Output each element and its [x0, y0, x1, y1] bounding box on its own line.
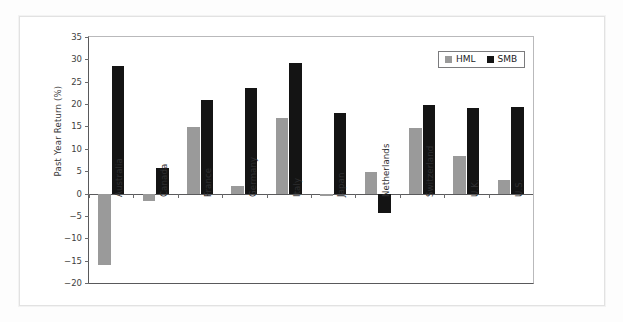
x-tick-mark [178, 194, 179, 198]
y-tick-label: 25 [71, 77, 82, 87]
x-category-label: Canada [159, 163, 169, 196]
x-tick-mark [400, 194, 401, 198]
y-tick-label: 10 [71, 144, 82, 154]
y-tick-mark [85, 37, 89, 38]
bar-hml-uk [453, 156, 466, 194]
x-category-label: U.S. [514, 179, 524, 197]
bar-hml-france [187, 127, 200, 194]
y-tick-mark [85, 238, 89, 239]
x-category-label: Australia [114, 158, 124, 197]
legend-label-hml: HML [456, 55, 476, 64]
legend-item-hml: HML [445, 55, 476, 64]
legend-item-smb: SMB [487, 55, 518, 64]
bar-hml-canada [143, 194, 156, 201]
y-tick-label: 35 [71, 32, 82, 42]
bar-hml-switzerland [409, 128, 422, 194]
bar-hml-germany [231, 186, 244, 194]
y-tick-mark [85, 59, 89, 60]
y-tick-label: 20 [71, 99, 82, 109]
legend-swatch-hml-icon [445, 56, 452, 63]
y-tick-mark [85, 216, 89, 217]
bar-hml-us [498, 180, 511, 194]
y-tick-label: −20 [64, 278, 82, 288]
y-tick-mark [85, 283, 89, 284]
x-category-label: Italy [292, 177, 302, 196]
x-tick-mark [133, 194, 134, 198]
x-tick-mark [222, 194, 223, 198]
y-tick-mark [85, 82, 89, 83]
x-category-label: Netherlands [381, 143, 391, 197]
chart-page: Past Year Return (%) 35302520151050−5−10… [0, 0, 623, 322]
y-tick-label: −15 [64, 256, 82, 266]
x-tick-mark [89, 194, 90, 198]
y-axis-title-wrapper: Past Year Return (%) [34, 30, 54, 260]
plot-area: 35302520151050−5−10−15−20 HML SMB [88, 36, 534, 284]
y-axis-title: Past Year Return (%) [53, 51, 63, 211]
bar-hml-netherlands [365, 172, 378, 193]
y-tick-label: 5 [77, 166, 82, 176]
y-tick-mark [85, 126, 89, 127]
bar-smb-italy [289, 63, 302, 194]
bar-chart-figure: Past Year Return (%) 35302520151050−5−10… [0, 0, 623, 322]
x-tick-mark [444, 194, 445, 198]
y-tick-label: −5 [69, 211, 82, 221]
y-tick-label: 30 [71, 54, 82, 64]
legend-swatch-smb-icon [487, 56, 494, 63]
y-tick-label: 0 [77, 189, 82, 199]
y-tick-mark [85, 261, 89, 262]
bar-hml-italy [276, 118, 289, 194]
y-tick-mark [85, 149, 89, 150]
x-category-label: Germany [248, 156, 258, 196]
x-tick-mark [355, 194, 356, 198]
legend-label-smb: SMB [498, 55, 518, 64]
x-category-label: Switzerland [425, 145, 435, 196]
y-tick-mark [85, 104, 89, 105]
x-category-label: U.K. [470, 179, 480, 197]
x-tick-mark [311, 194, 312, 198]
x-tick-mark [267, 194, 268, 198]
chart-legend: HML SMB [438, 51, 525, 68]
x-category-label: France [203, 167, 213, 196]
y-tick-label: −10 [64, 233, 82, 243]
y-tick-mark [85, 171, 89, 172]
x-category-label: Japan [336, 172, 346, 196]
bar-hml-japan [320, 194, 333, 196]
y-tick-label: 15 [71, 121, 82, 131]
bar-hml-australia [98, 194, 111, 266]
x-tick-mark [489, 194, 490, 198]
